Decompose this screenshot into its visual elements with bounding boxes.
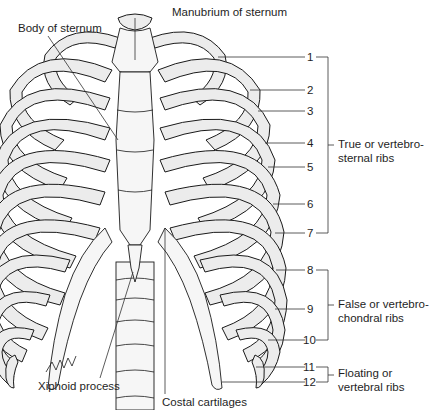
rib-number-9: 9	[307, 303, 313, 315]
rib-number-1: 1	[307, 51, 313, 63]
rib-number-12: 12	[303, 376, 316, 388]
rib-number-10: 10	[303, 334, 316, 346]
ribcage-illustration	[0, 0, 431, 410]
thoracic-cage-figure: Manubrium of sternum Body of sternum Xip…	[0, 0, 431, 410]
group-brackets	[316, 57, 334, 382]
label-costal-cartilages: Costal cartilages	[162, 396, 247, 409]
ribs-right	[150, 32, 287, 390]
label-xiphoid-process: Xiphoid process	[38, 380, 120, 393]
rib-number-6: 6	[307, 198, 313, 210]
sternum	[112, 28, 158, 282]
rib-number-4: 4	[307, 137, 313, 149]
rib-number-2: 2	[307, 84, 313, 96]
rib-number-3: 3	[307, 105, 313, 117]
sternum-body-shape	[116, 72, 154, 245]
rib-number-8: 8	[307, 264, 313, 276]
label-body-of-sternum: Body of sternum	[18, 22, 102, 35]
rib-number-5: 5	[307, 161, 313, 173]
group-floating-ribs: Floating or vertebral ribs	[338, 366, 404, 394]
group-true-ribs: True or vertebro- sternal ribs	[338, 137, 424, 165]
group-false-ribs: False or vertebro- chondral ribs	[338, 297, 429, 325]
ribs-left	[0, 32, 120, 390]
rib-number-7: 7	[307, 227, 313, 239]
label-manubrium: Manubrium of sternum	[172, 6, 287, 19]
rib-number-11: 11	[303, 361, 315, 373]
vertebral-column	[116, 262, 154, 410]
